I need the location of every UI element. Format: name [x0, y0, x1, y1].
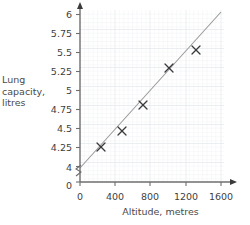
x-axis-line — [80, 179, 237, 185]
lung-capacity-scatter-chart: Lung capacity, litres 6 5.75 5.5 5.25 5 … — [0, 0, 250, 225]
data-point-marker — [192, 46, 200, 54]
plot-area — [0, 0, 250, 225]
y-axis-line — [77, 2, 83, 182]
x-axis-title: Altitude, metres — [78, 206, 243, 217]
minor-gridlines — [80, 10, 224, 182]
